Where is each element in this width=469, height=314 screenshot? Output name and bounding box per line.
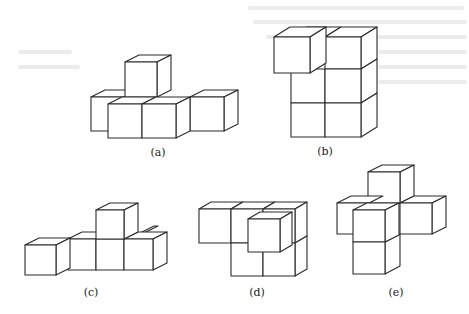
panel-a: (a) bbox=[91, 55, 238, 159]
label-d: (d) bbox=[249, 286, 265, 299]
label-e: (e) bbox=[388, 286, 403, 299]
panel-e: (e) bbox=[337, 165, 446, 299]
panel-d: (d) bbox=[199, 202, 307, 299]
panel-b: (b) bbox=[274, 27, 377, 158]
cube-figures: (a) (b) bbox=[0, 0, 469, 314]
label-b: (b) bbox=[317, 145, 333, 158]
panel-c: (c) bbox=[25, 203, 167, 299]
label-c: (c) bbox=[84, 286, 99, 299]
label-a: (a) bbox=[150, 146, 165, 159]
